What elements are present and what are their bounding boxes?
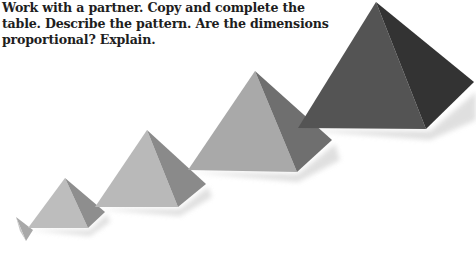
pyramid-1 — [16, 217, 33, 241]
pyramid-5 — [298, 2, 474, 129]
pyramid-2 — [28, 178, 105, 228]
pyramids-illustration — [0, 0, 476, 256]
